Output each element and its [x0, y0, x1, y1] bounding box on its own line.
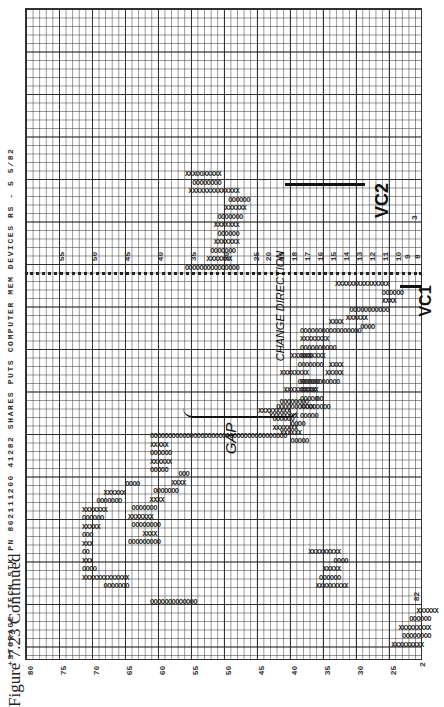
axis-tick: 30	[356, 666, 365, 676]
gap-brace	[183, 408, 298, 418]
axis-tick: 20	[264, 252, 273, 262]
axis-tick: 45	[123, 252, 132, 262]
axis-tick: 40	[290, 666, 299, 676]
axis-tick: 15	[329, 252, 338, 262]
axis-tick: 50	[224, 666, 233, 676]
annotation-vc1: VC1	[417, 285, 435, 316]
axis-tick: 16	[316, 252, 325, 262]
axis-tick: 25	[252, 252, 261, 262]
axis-tick: 13	[355, 252, 364, 262]
axis-tick: 65	[125, 666, 134, 676]
axis-tick: 12	[368, 252, 377, 262]
annotation-vc2: VC2	[372, 183, 393, 218]
axis-tick: 50	[90, 252, 99, 262]
axis-tick: 60	[158, 666, 167, 676]
corner-mark: 3	[410, 215, 419, 220]
axis-tick: 55	[191, 666, 200, 676]
axis-tick: 9	[403, 254, 412, 259]
axis-tick: 75	[59, 666, 68, 676]
axis-tick: 11	[381, 252, 390, 262]
axis-tick: 80	[26, 666, 35, 676]
scale-change-dotted-line	[25, 272, 422, 275]
axis-tick: 55	[57, 252, 66, 262]
axis-tick: 17	[303, 252, 312, 262]
axis-tick: 8	[413, 254, 422, 259]
axis-tick: 35	[323, 666, 332, 676]
axis-tick: 40	[156, 252, 165, 262]
axis-tick: 14	[342, 252, 351, 262]
chart-title: +STORAGE TECH STK PN 862111200 41282 SHA…	[6, 6, 18, 666]
axis-tick: 25	[389, 666, 398, 676]
axis-tick: 18	[290, 252, 299, 262]
axis-tick: 70	[92, 666, 101, 676]
annotation-change-direction: CHANGE DIRECTION	[274, 251, 286, 362]
vc2-arrow	[285, 183, 365, 186]
annotation-gap: GAP	[222, 423, 239, 455]
axis-tick: 45	[257, 666, 266, 676]
corner-mark: 2	[418, 662, 427, 667]
